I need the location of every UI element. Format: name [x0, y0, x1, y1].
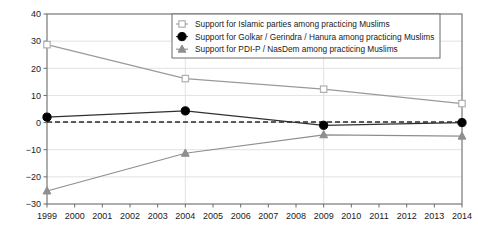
x-tick-label: 2001 — [92, 211, 112, 221]
x-tick-label: 2012 — [397, 211, 417, 221]
x-tick-label: 2011 — [369, 211, 388, 221]
y-tick-label: 10 — [31, 91, 41, 101]
series-marker — [458, 118, 466, 126]
chart-legend: Support for Islamic parties among practi… — [172, 14, 440, 58]
x-tick-label: 1999 — [37, 211, 57, 221]
series-marker — [459, 100, 465, 106]
y-tick-label: 30 — [31, 36, 41, 46]
legend-entry: Support for Islamic parties among practi… — [176, 19, 390, 29]
x-tick-label: 2008 — [286, 211, 306, 221]
x-tick-label: 2007 — [258, 211, 278, 221]
x-tick-label: 2002 — [120, 211, 140, 221]
line-chart-figure: 403020100−10−20−30 199920002001200220032… — [0, 0, 478, 236]
series-marker — [320, 86, 326, 92]
x-tick-label: 2000 — [65, 211, 85, 221]
series-marker — [181, 107, 189, 115]
legend-entry: Support for PDI-P / NasDem among practic… — [176, 44, 398, 54]
series-marker — [44, 41, 50, 47]
series-marker — [320, 121, 328, 129]
y-tick-label: 0 — [36, 118, 41, 128]
x-tick-label: 2010 — [341, 211, 361, 221]
legend-marker-open-square — [179, 21, 185, 27]
x-tick-label: 2004 — [175, 211, 195, 221]
y-tick-label: −30 — [26, 199, 41, 209]
y-tick-label: −20 — [26, 172, 41, 182]
legend-entry-label: Support for Islamic parties among practi… — [195, 19, 390, 29]
y-tick-label: 20 — [31, 64, 41, 74]
y-tick-label: 40 — [31, 9, 41, 19]
x-tick-label: 2006 — [231, 211, 251, 221]
series-marker — [43, 113, 51, 121]
chart-canvas: 403020100−10−20−30 199920002001200220032… — [0, 0, 478, 236]
legend-entry-label: Support for PDI-P / NasDem among practic… — [195, 44, 398, 54]
x-tick-label: 2003 — [148, 211, 168, 221]
x-tick-label: 2005 — [203, 211, 223, 221]
x-tick-label: 2009 — [314, 211, 334, 221]
x-tick-label: 2014 — [452, 211, 472, 221]
y-tick-label: −10 — [26, 145, 41, 155]
x-tick-label: 2013 — [424, 211, 444, 221]
series-marker — [182, 75, 188, 81]
legend-marker-filled-circle — [178, 33, 186, 41]
legend-entry-label: Support for Golkar / Gerindra / Hanura a… — [195, 32, 434, 42]
legend-entry: Support for Golkar / Gerindra / Hanura a… — [176, 32, 434, 42]
